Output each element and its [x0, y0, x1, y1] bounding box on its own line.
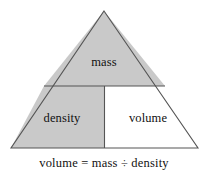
mass-region-label: mass [0, 56, 208, 69]
triangle-diagram [0, 0, 208, 155]
formula-caption: volume = mass ÷ density [0, 157, 208, 170]
mass-region-fill [44, 11, 165, 86]
density-region-label: density [22, 112, 102, 125]
formula-triangle-figure: mass density volume volume = mass ÷ dens… [0, 0, 208, 175]
volume-region-label: volume [108, 112, 188, 125]
